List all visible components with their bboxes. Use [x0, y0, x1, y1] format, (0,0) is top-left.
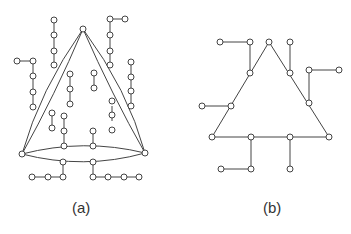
figure-a-label: (a) — [72, 199, 90, 216]
figure-a-nodes — [14, 16, 148, 180]
diagram-canvas — [0, 0, 351, 234]
figure-b-graph — [199, 39, 342, 172]
figure-b-label: (b) — [263, 199, 281, 216]
figure-a-graph — [14, 16, 148, 180]
